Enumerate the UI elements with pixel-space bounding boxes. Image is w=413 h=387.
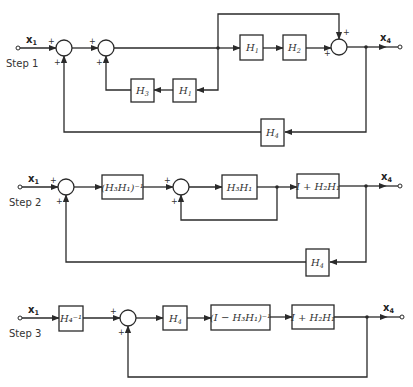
sign-label: + xyxy=(171,197,178,206)
step-label: Step 3 xyxy=(9,328,41,339)
step-3-diagram: x1 Step 3 H₄⁻¹ + + H4 (I − H₃H₁)⁻¹ I + H… xyxy=(9,302,404,377)
output-terminal xyxy=(398,45,402,49)
block-label: (H₃H₁)⁻¹ xyxy=(101,182,144,193)
summing-junction xyxy=(56,40,72,56)
sign-label: + xyxy=(164,176,171,185)
input-signal-label: x1 xyxy=(28,173,39,186)
input-signal-label: x1 xyxy=(26,34,37,47)
sign-label: + xyxy=(56,197,63,206)
input-terminal xyxy=(18,316,22,320)
sign-label: + xyxy=(54,58,61,67)
block-label: (I − H₃H₁)⁻¹ xyxy=(210,312,271,323)
input-terminal xyxy=(16,46,20,50)
step-2-diagram: x1 Step 2 + + (H₃H₁)⁻¹ + + H₃H₁ I + H₂H₁… xyxy=(9,171,402,276)
step-label: Step 2 xyxy=(9,197,41,208)
sign-label: + xyxy=(48,37,55,46)
step-label: Step 1 xyxy=(6,58,38,69)
block-label: I + H₂H₁ xyxy=(290,312,335,323)
summing-junction xyxy=(58,179,74,195)
block-diagram: x1 Step 1 + + + + H1 H2 + + H1 H3 xyxy=(0,0,413,387)
summing-junction xyxy=(331,39,347,55)
output-signal-label: x4 xyxy=(383,302,394,315)
block-label: H₃H₁ xyxy=(226,182,252,193)
sign-label: + xyxy=(89,37,96,46)
sign-label: + xyxy=(50,176,57,185)
input-terminal xyxy=(18,185,22,189)
input-signal-label: x1 xyxy=(28,304,39,317)
summing-junction xyxy=(120,310,136,326)
sign-label: + xyxy=(343,28,350,37)
summing-junction xyxy=(98,40,114,56)
summing-junction xyxy=(173,179,189,195)
block-label: I + H₂H₁ xyxy=(295,181,340,192)
output-signal-label: x4 xyxy=(380,32,391,45)
sign-label: + xyxy=(324,49,331,58)
sign-label: + xyxy=(118,328,125,337)
block-label: H₄⁻¹ xyxy=(59,313,82,324)
output-terminal xyxy=(398,184,402,188)
step-1-diagram: x1 Step 1 + + + + H1 H2 + + H1 H3 xyxy=(6,14,402,146)
sign-label: + xyxy=(110,307,117,316)
output-terminal xyxy=(400,315,404,319)
output-signal-label: x4 xyxy=(381,171,392,184)
sign-label: + xyxy=(96,58,103,67)
